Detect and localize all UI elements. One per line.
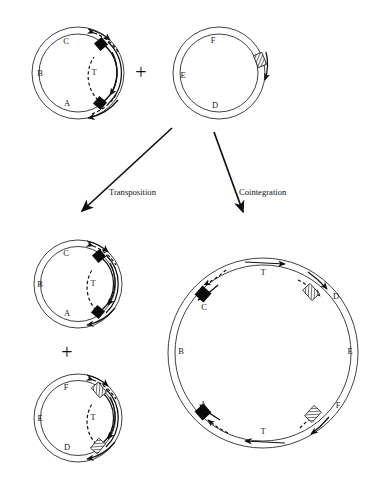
product-donor-label-A: A	[64, 308, 71, 318]
recipient-label-D: D	[212, 100, 218, 110]
product-donor-label-C: C	[63, 248, 69, 258]
figure-svg: C B A T + F E D Transposition Cointegrat…	[0, 0, 373, 490]
cointegrate-end-top-left	[195, 286, 212, 303]
plasmid-cointegrate: C B A D E F T T	[168, 258, 358, 448]
recipient-arrow-right	[265, 52, 268, 80]
transposition-arrow	[82, 128, 172, 211]
product-recipient-target-top	[91, 382, 106, 398]
cointegrate-label-E: E	[347, 346, 352, 356]
cointegrate-label-C: C	[201, 302, 207, 312]
plasmid-product-recipient: F E D T	[34, 374, 122, 462]
donor-label-B: B	[37, 68, 43, 78]
cointegrate-target-bottom-right	[305, 405, 322, 422]
donor-dashed-arc-left	[88, 57, 98, 100]
cointegrate-label-A: A	[200, 399, 207, 409]
product-recipient-label-E: E	[37, 413, 42, 423]
pathway-cointegration: Cointegration	[214, 132, 287, 212]
recipient-label-E: E	[180, 70, 185, 80]
cointegrate-label-F: F	[336, 400, 341, 410]
figure-canvas: C B A T + F E D Transposition Cointegrat…	[0, 0, 373, 490]
product-donor-end-bottom	[91, 305, 105, 319]
product-recipient-label-T: T	[90, 412, 96, 422]
recipient-outer-ring	[173, 27, 265, 119]
cointegrate-label-T-top: T	[260, 267, 266, 277]
donor-label-T: T	[91, 67, 97, 77]
recipient-label-F: F	[211, 35, 216, 45]
product-recipient-label-D: D	[64, 442, 70, 452]
cointegrate-label-D: D	[333, 291, 339, 301]
product-recipient-dashed-left	[87, 404, 96, 444]
product-recipient-label-F: F	[64, 382, 69, 392]
donor-arrow-top	[88, 29, 110, 40]
donor-label-C: C	[63, 36, 69, 46]
cointegrate-outer-ring	[168, 258, 358, 448]
cointegration-label: Cointegration	[239, 187, 287, 197]
donor-label-A: A	[64, 98, 71, 108]
product-donor-dashed-left	[87, 270, 96, 310]
product-donor-label-B: B	[37, 279, 43, 289]
cointegrate-label-T-bottom: T	[260, 426, 266, 436]
cointegrate-label-B: B	[178, 346, 184, 356]
cointegrate-dashed-top-left	[204, 270, 226, 285]
donor-outer-ring	[32, 27, 124, 119]
cointegrate-dashed-bottom-left	[208, 420, 228, 433]
plasmid-donor: C B A T	[32, 27, 124, 119]
plus-sign-bottom: +	[61, 341, 72, 363]
product-donor-arrow-top	[87, 241, 108, 252]
cointegrate-arrow-top-T	[245, 262, 285, 264]
product-donor-end-top	[92, 249, 106, 263]
product-recipient-target-bottom	[90, 438, 105, 454]
pathway-transposition: Transposition	[82, 128, 172, 211]
recipient-inner-ring	[180, 34, 258, 112]
transposition-label: Transposition	[109, 187, 157, 197]
recipient-target-site	[253, 52, 266, 67]
plus-sign-top: +	[135, 61, 146, 83]
product-donor-label-T: T	[90, 278, 96, 288]
donor-arrow-right	[110, 52, 117, 95]
donor-transposon-arc-inner	[104, 45, 117, 101]
cointegrate-target-top-right	[303, 283, 320, 300]
plasmid-recipient: F E D	[173, 27, 268, 119]
cointegration-arrow	[214, 132, 243, 212]
plasmid-product-donor: C B A T	[34, 240, 122, 328]
